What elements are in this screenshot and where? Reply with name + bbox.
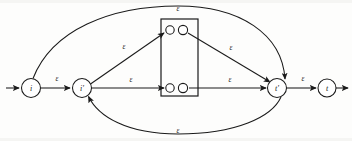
inner-state-top-left xyxy=(166,26,174,34)
edge-label-epsilon: ε xyxy=(302,74,305,83)
state-node-t-prime: t' xyxy=(268,79,287,98)
edge-label-epsilon: ε xyxy=(177,4,180,13)
edge-i-to-iprime: ε xyxy=(41,74,70,88)
edge-label-epsilon: ε xyxy=(123,42,126,51)
automaton-canvas: ε ε ε ε ε ε xyxy=(0,0,352,141)
edge-label-epsilon: ε xyxy=(130,75,133,84)
edge-iprime-to-inner-bottom: ε xyxy=(92,75,165,88)
edge-label-epsilon: ε xyxy=(56,74,59,83)
edge-inner-bottom-to-tprime: ε xyxy=(189,75,266,88)
inner-state-bottom-left xyxy=(166,84,174,92)
edge-iprime-to-inner-top: ε xyxy=(91,33,165,84)
inner-automaton-box xyxy=(161,19,198,96)
edge-label-epsilon: ε xyxy=(230,43,233,52)
edge-tprime-to-t: ε xyxy=(287,74,316,88)
state-node-i-prime: i' xyxy=(73,79,92,98)
state-label-i-prime: i' xyxy=(80,84,84,93)
state-label-t-prime: t' xyxy=(275,84,279,93)
edge-bypass-top: ε xyxy=(33,4,285,79)
state-node-i: i xyxy=(22,79,41,98)
state-label-i: i xyxy=(30,84,32,93)
edge-label-epsilon: ε xyxy=(177,126,180,135)
automaton-diagram: ε ε ε ε ε ε xyxy=(0,0,352,141)
edge-label-epsilon: ε xyxy=(229,75,232,84)
edge-bypass-bottom: ε xyxy=(89,97,282,135)
state-node-t: t xyxy=(318,79,336,97)
inner-state-bottom-right xyxy=(178,83,187,92)
inner-state-top-right xyxy=(178,25,187,34)
